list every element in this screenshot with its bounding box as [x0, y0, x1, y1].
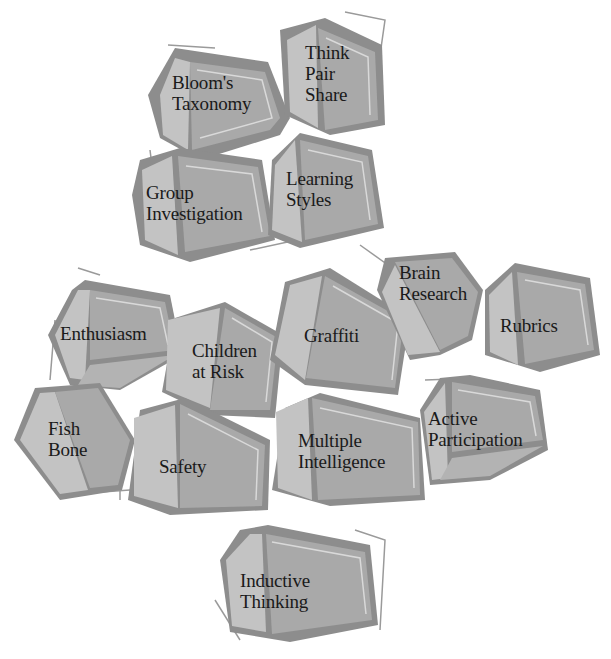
label-line: Think [305, 42, 349, 63]
label-fish-bone: Fish Bone [48, 418, 87, 460]
label-line: Thinking [240, 591, 310, 612]
label-line: Learning [286, 168, 353, 189]
label-line: Styles [286, 189, 353, 210]
label-line: Inductive [240, 570, 310, 591]
label-line: Multiple [298, 430, 385, 451]
label-line: Group [146, 182, 243, 203]
label-children-at-risk: Children at Risk [192, 340, 257, 382]
label-line: Share [305, 84, 349, 105]
label-multiple-intelligence: Multiple Intelligence [298, 430, 385, 472]
label-enthusiasm: Enthusiasm [60, 323, 147, 344]
label-graffiti: Graffiti [304, 325, 359, 346]
label-line: Fish [48, 418, 87, 439]
label-line: at Risk [192, 361, 257, 382]
label-blooms-taxonomy: Bloom's Taxonomy [172, 72, 251, 114]
label-line: Active [428, 408, 523, 429]
label-line: Enthusiasm [60, 323, 147, 344]
label-line: Brain [399, 262, 467, 283]
label-learning-styles: Learning Styles [286, 168, 353, 210]
label-brain-research: Brain Research [399, 262, 467, 304]
label-inductive-thinking: Inductive Thinking [240, 570, 310, 612]
label-line: Bloom's [172, 72, 251, 93]
label-line: Intelligence [298, 451, 385, 472]
label-line: Pair [305, 63, 349, 84]
label-rubrics: Rubrics [500, 315, 558, 336]
label-active-participation: Active Participation [428, 408, 523, 450]
label-line: Participation [428, 429, 523, 450]
label-line: Investigation [146, 203, 243, 224]
block-cluster-diagram: Bloom's Taxonomy Think Pair Share Group … [0, 0, 611, 659]
label-line: Bone [48, 439, 87, 460]
label-group-investigation: Group Investigation [146, 182, 243, 224]
label-line: Rubrics [500, 315, 558, 336]
label-line: Research [399, 283, 467, 304]
label-safety: Safety [159, 456, 206, 477]
label-think-pair-share: Think Pair Share [305, 42, 349, 105]
label-line: Graffiti [304, 325, 359, 346]
label-line: Children [192, 340, 257, 361]
label-line: Safety [159, 456, 206, 477]
label-line: Taxonomy [172, 93, 251, 114]
